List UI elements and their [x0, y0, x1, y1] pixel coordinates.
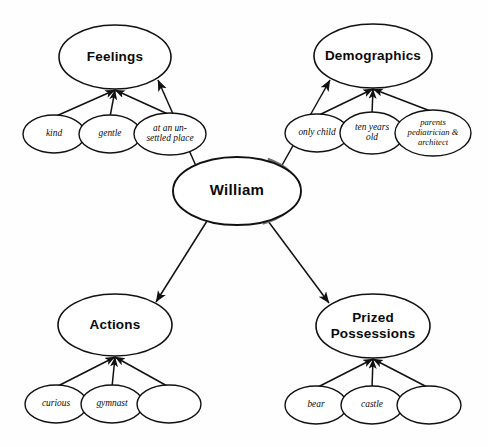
center-node-group: William [173, 157, 301, 225]
sub-node-label-castle: castle [361, 399, 383, 409]
sub-node-label-kind: kind [46, 128, 62, 138]
concept-map-canvas: kindgentleat an un-settled placeonly chi… [0, 0, 488, 447]
link-feelings-to-gentle [110, 90, 115, 117]
sub-node-label-bear: bear [307, 399, 325, 409]
category-label-feelings: Feelings [87, 49, 143, 64]
category-label-demographics: Demographics [325, 48, 421, 63]
link-prized-possessions-to-bear [316, 359, 373, 388]
link-demographics-to-ten-years-old [372, 89, 373, 114]
sub-node-possessions-blank [397, 386, 461, 424]
link-demographics-to-parents-jobs [373, 89, 433, 112]
link-actions-to-curious [56, 357, 115, 387]
link-feelings-to-unsettled-place [115, 90, 170, 115]
link-actions-to-actions-blank [115, 357, 169, 387]
sub-node-label-unsettled-place: at an un-settled place [146, 123, 193, 143]
concept-map-diagram: kindgentleat an un-settled placeonly chi… [0, 0, 488, 447]
link-prized-possessions-to-possessions-blank [373, 359, 429, 388]
link-william-to-prized-possessions [268, 221, 329, 303]
link-prized-possessions-to-castle [372, 359, 373, 388]
sub-node-label-gentle: gentle [99, 128, 122, 138]
center-node-label: William [210, 181, 264, 198]
sub-node-actions-blank [137, 385, 201, 423]
sub-node-label-gymnast: gymnast [96, 398, 128, 408]
sub-node-label-only-child: only child [298, 127, 336, 137]
link-william-to-actions [156, 221, 207, 302]
sub-node-label-curious: curious [42, 398, 70, 408]
category-label-actions: Actions [90, 317, 141, 332]
link-feelings-to-kind [54, 90, 115, 117]
link-actions-to-gymnast [112, 357, 115, 387]
